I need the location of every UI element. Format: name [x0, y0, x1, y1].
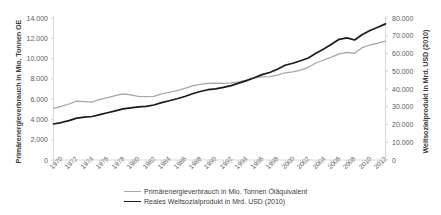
legend-swatch-energy-icon — [124, 191, 141, 192]
legend-label-energy: Primärenergieverbrauch in Mio. Tonnen Öl… — [144, 188, 307, 195]
legend-item-gdp: Reales Weltsozialprodukt in Mrd. USD (20… — [124, 196, 364, 206]
legend-swatch-gdp-icon — [124, 201, 141, 202]
chart-container: Primärenergieverbrauch in Mio. Tonnen OE… — [0, 0, 441, 215]
chart-legend: Primärenergieverbrauch in Mio. Tonnen Öl… — [124, 186, 364, 206]
series-line-energy — [54, 41, 386, 108]
legend-label-gdp: Reales Weltsozialprodukt in Mrd. USD (20… — [144, 198, 285, 205]
legend-item-energy: Primärenergieverbrauch in Mio. Tonnen Öl… — [124, 186, 364, 196]
series-line-gdp — [54, 24, 386, 124]
plot-area — [0, 0, 441, 215]
